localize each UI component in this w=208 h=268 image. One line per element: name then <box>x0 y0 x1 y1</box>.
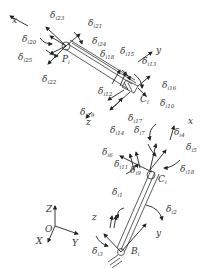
global-frame <box>48 206 78 242</box>
svg-text:δi12: δi12 <box>98 86 113 97</box>
svg-text:δi13: δi13 <box>142 56 157 67</box>
svg-text:y: y <box>155 228 162 238</box>
svg-text:δi16: δi16 <box>162 80 177 91</box>
svg-text:δi21: δi21 <box>88 18 102 29</box>
svg-text:z: z <box>91 212 97 222</box>
svg-text:δi6: δi6 <box>102 147 113 158</box>
svg-text:Z: Z <box>45 204 53 214</box>
svg-text:δi7: δi7 <box>134 125 145 136</box>
svg-text:δi18: δi18 <box>180 164 195 175</box>
svg-text:δi19: δi19 <box>80 107 95 118</box>
svg-text:δi11: δi11 <box>114 159 128 170</box>
svg-text:δi25: δi25 <box>18 52 33 63</box>
svg-text:δi1: δi1 <box>112 187 123 198</box>
svg-text:δi2: δi2 <box>166 204 177 215</box>
svg-text:δi20: δi20 <box>22 34 37 45</box>
svg-text:δi24: δi24 <box>92 36 107 47</box>
svg-text:Bi: Bi <box>130 246 140 257</box>
svg-text:x: x <box>188 116 193 126</box>
svg-text:δi23: δi23 <box>50 10 65 21</box>
svg-text:δi10: δi10 <box>160 98 175 109</box>
lower-frame-arrows <box>96 124 180 252</box>
svg-text:Pi: Pi <box>61 54 70 65</box>
svg-text:δi22: δi22 <box>42 74 57 85</box>
svg-text:δi5: δi5 <box>186 142 197 153</box>
svg-text:δi3: δi3 <box>92 246 103 257</box>
svg-text:Y: Y <box>72 238 79 248</box>
svg-text:O: O <box>45 224 53 234</box>
svg-text:δi18: δi18 <box>100 49 115 60</box>
svg-text:δi14: δi14 <box>110 125 125 136</box>
upper-frame-arrows <box>10 16 152 118</box>
svg-text:y: y <box>155 45 162 55</box>
kinematic-diagram: Pi Ci Ci Bi O x y z x y z Z X Y δi23 δi2… <box>0 0 208 268</box>
svg-text:δi4: δi4 <box>174 127 185 138</box>
svg-text:Ci: Ci <box>140 94 149 105</box>
svg-text:X: X <box>35 236 43 246</box>
svg-text:z: z <box>85 117 91 127</box>
svg-text:δi15: δi15 <box>120 46 135 57</box>
svg-text:δi17: δi17 <box>128 113 143 124</box>
delta-labels: δi23 δi21 δi20 δi24 δi25 δi18 δi15 δi13 … <box>18 10 197 257</box>
svg-text:x: x <box>12 15 17 25</box>
svg-text:Ci: Ci <box>158 174 167 185</box>
